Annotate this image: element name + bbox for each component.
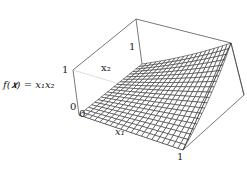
z-axis-label: f(𝒙) = x₁x₂ — [3, 79, 55, 91]
x2-tick-1: 1 — [129, 41, 135, 52]
x2-axis-label: x₂ — [101, 62, 111, 73]
box-edge — [136, 19, 142, 64]
surface-mesh — [79, 43, 231, 150]
z-tick-1: 1 — [62, 64, 68, 75]
box-edge — [231, 43, 244, 95]
box-edge — [136, 19, 231, 43]
z-tick-0: 0 — [70, 101, 76, 112]
x1-tick-0: 0 — [79, 108, 85, 119]
x1-tick-1: 1 — [177, 151, 183, 162]
x1-axis-label: x₁ — [115, 126, 125, 137]
